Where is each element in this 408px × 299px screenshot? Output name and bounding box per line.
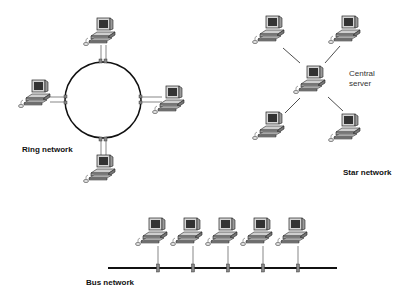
bus-tap-connector	[157, 264, 160, 272]
bus-tap-connector	[297, 264, 300, 272]
ring-network-label: Ring network	[22, 145, 73, 154]
ring-computer-left-icon	[19, 80, 51, 108]
star-link-bottom-right	[328, 97, 343, 111]
bus-network	[108, 218, 337, 272]
bus-network-label: Bus network	[86, 278, 134, 287]
ring-computer-top-icon	[84, 18, 116, 46]
bus-node	[241, 218, 273, 272]
central-server-label: Central server	[349, 69, 375, 89]
star-computer-bottom-right-icon	[329, 114, 361, 142]
bus-tap-connector	[192, 264, 195, 272]
bus-node	[171, 218, 203, 272]
central-server-label-line2: server	[349, 79, 375, 89]
bus-computer-icon	[241, 218, 273, 246]
bus-computer-icon	[276, 218, 308, 246]
bus-node	[136, 218, 168, 272]
bus-computer-icon	[171, 218, 203, 246]
star-network-label: Star network	[343, 168, 391, 177]
ring-computer-bottom-icon	[84, 155, 116, 183]
ring-link-top	[99, 45, 107, 63]
star-computer-top-left-icon	[253, 16, 285, 44]
ring-link-right	[139, 95, 162, 104]
bus-node	[206, 218, 238, 272]
bus-node	[276, 218, 308, 272]
bus-tap-connector	[262, 264, 265, 272]
ring-cable	[65, 62, 141, 138]
ring-computer-right-icon	[153, 86, 185, 114]
bus-computer-icon	[136, 218, 168, 246]
star-link-top-left	[283, 48, 300, 63]
star-computer-top-right-icon	[329, 16, 361, 44]
star-link-bottom-left	[285, 98, 300, 113]
central-server-label-line1: Central	[349, 69, 375, 79]
star-network	[253, 16, 361, 142]
star-link-top-right	[325, 46, 340, 63]
bus-tap-connector	[227, 264, 230, 272]
ring-network	[19, 18, 185, 183]
ring-link-bottom	[99, 137, 107, 155]
central-server-icon	[294, 66, 326, 94]
star-computer-bottom-left-icon	[253, 112, 285, 140]
bus-computer-icon	[206, 218, 238, 246]
